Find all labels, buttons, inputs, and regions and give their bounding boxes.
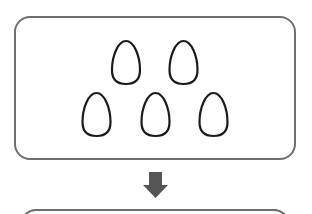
arrow-down-icon — [143, 172, 168, 198]
egg-icon — [112, 41, 140, 84]
egg-icon — [170, 41, 198, 84]
egg-icon — [142, 93, 170, 136]
bottom-panel — [20, 209, 290, 214]
diagram-canvas — [0, 0, 312, 214]
egg-icon — [200, 93, 228, 136]
egg-icon — [83, 93, 111, 136]
